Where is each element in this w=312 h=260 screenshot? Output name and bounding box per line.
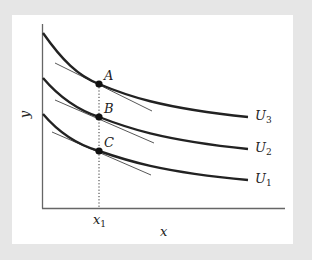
x1-tick-subscript: 1 [100,219,106,229]
x-axis-label: x [160,225,167,238]
point-c-marker [95,147,102,154]
y-axis-label: y [18,111,31,118]
point-c-label: C [104,136,114,149]
point-a-label: A [104,69,113,82]
curve-u2-name: U [255,140,266,155]
curve-u3-subscript: 3 [266,115,272,125]
curve-u1-subscript: 1 [266,178,272,188]
point-a-marker [95,80,102,87]
curve-u3-name: U [255,108,266,123]
curve-u2-subscript: 2 [266,147,272,157]
curve-u2-label: U2 [255,141,272,157]
curve-u1 [43,114,248,180]
x1-tick-label: x1 [93,213,106,229]
point-b-marker [95,113,102,120]
point-b-label: B [104,102,114,115]
curve-u1-name: U [255,171,266,186]
curve-u1-label: U1 [255,172,272,188]
curve-u3-label: U3 [255,109,272,125]
indifference-curve-diagram [0,0,312,260]
